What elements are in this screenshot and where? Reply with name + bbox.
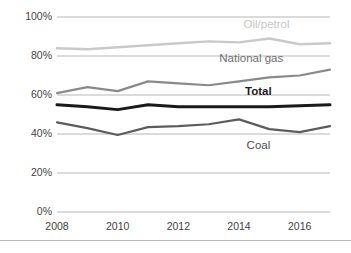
gridlines-group [57, 17, 330, 212]
series-line-oil-petrol [57, 38, 330, 49]
series-line-coal [57, 119, 330, 135]
y-tick: 100% [0, 11, 52, 22]
series-label-national-gas: National gas [219, 52, 283, 64]
series-group [57, 38, 330, 135]
series-line-total [57, 105, 330, 110]
x-tick-label: 2016 [280, 220, 320, 232]
y-tick-label: 40% [4, 128, 52, 139]
y-tick: 0% [0, 206, 52, 217]
y-tick-label: 80% [4, 50, 52, 61]
y-tick-label: 60% [4, 89, 52, 100]
chart-screenshot: 100%80%60%40%20%0% 20082010201220142016 … [0, 0, 351, 253]
line-chart: 100%80%60%40%20%0% 20082010201220142016 … [0, 0, 351, 240]
x-tick-label: 2008 [37, 220, 77, 232]
y-tick: 20% [0, 167, 52, 178]
y-tick-label: 0% [4, 206, 52, 217]
x-tick-label: 2010 [98, 220, 138, 232]
x-tick-label: 2012 [158, 220, 198, 232]
series-label-oil-petrol: Oil/petrol [244, 18, 290, 30]
y-tick-label: 20% [4, 167, 52, 178]
series-label-total: Total [245, 85, 272, 97]
y-tick: 40% [0, 128, 52, 139]
y-tick: 80% [0, 50, 52, 61]
series-label-coal: Coal [247, 139, 271, 151]
frame-bottom-divider [0, 240, 351, 241]
chart-plot-svg [0, 0, 351, 240]
x-tick-label: 2014 [219, 220, 259, 232]
y-tick: 60% [0, 89, 52, 100]
series-line-national-gas [57, 70, 330, 93]
y-tick-label: 100% [4, 11, 52, 22]
